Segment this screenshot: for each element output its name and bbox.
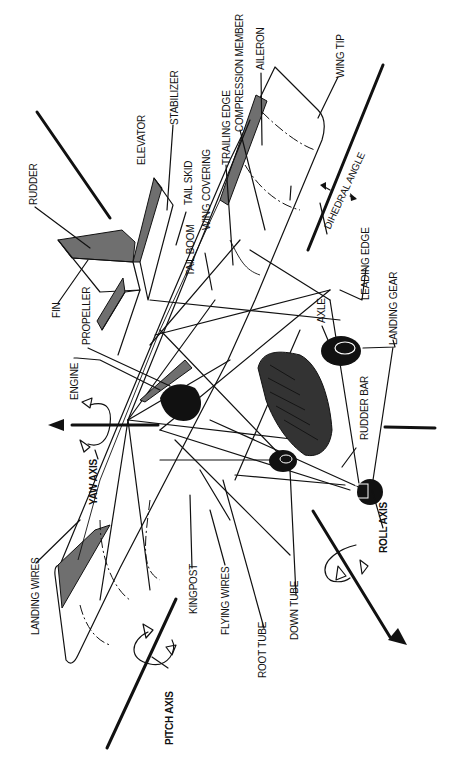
label-leading-edge: LEADING EDGE — [360, 227, 371, 300]
label-elevator: ELEVATOR — [136, 115, 147, 165]
label-down-tube: DOWN TUBE — [289, 580, 300, 640]
label-aileron: AILERON — [255, 27, 266, 70]
yaw-axis-line-right — [385, 427, 435, 428]
ultralight-aircraft-diagram: RUDDER ELEVATOR STABILIZER TAIL SKID TAI… — [0, 0, 459, 771]
label-pitch-axis: PITCH AXIS — [164, 691, 175, 745]
lower-elevator-shape — [97, 278, 125, 330]
wheel-right — [321, 336, 361, 366]
label-yaw-axis: YAW AXIS — [88, 458, 99, 505]
label-propeller: PROPELLER — [81, 287, 92, 345]
label-compression-member: COMPRESSION MEMBER — [234, 14, 245, 132]
axis-line-dihedral — [308, 65, 383, 250]
yaw-axis-arrowhead-icon — [48, 419, 64, 431]
label-engine: ENGINE — [69, 362, 80, 400]
elevator-shape — [133, 178, 162, 262]
labels: RUDDER ELEVATOR STABILIZER TAIL SKID TAI… — [28, 14, 399, 745]
rudder-shape — [58, 230, 135, 262]
label-kingpost: KINGPOST — [188, 564, 199, 614]
label-rudder: RUDDER — [28, 163, 39, 205]
label-rudder-bar: RUDDER BAR — [359, 376, 370, 440]
axis-line-upper-left — [37, 112, 110, 218]
label-wing-covering: WING COVERING — [201, 149, 212, 230]
label-flying-wires: FLYING WIRES — [220, 566, 231, 635]
wheel-left — [269, 450, 297, 472]
label-axle: AXLE — [316, 298, 327, 323]
label-tail-boom: TAIL BOOM — [185, 224, 196, 276]
label-landing-wires: LANDING WIRES — [30, 557, 41, 635]
label-fin: FIN — [51, 302, 62, 318]
label-tail-skid: TAIL SKID — [183, 161, 194, 205]
label-trailing-edge: TRAILING EDGE — [221, 90, 232, 165]
label-root-tube: ROOT TUBE — [257, 621, 268, 678]
label-wing-tip: WING TIP — [335, 34, 346, 78]
tail-assembly — [58, 178, 173, 355]
label-roll-axis: ROLL AXIS — [378, 501, 389, 553]
seat — [258, 352, 332, 455]
wheel-front — [357, 479, 383, 505]
label-stabilizer: STABILIZER — [169, 71, 180, 126]
engine-shape — [160, 384, 201, 421]
label-landing-gear: LANDING GEAR — [388, 272, 399, 345]
